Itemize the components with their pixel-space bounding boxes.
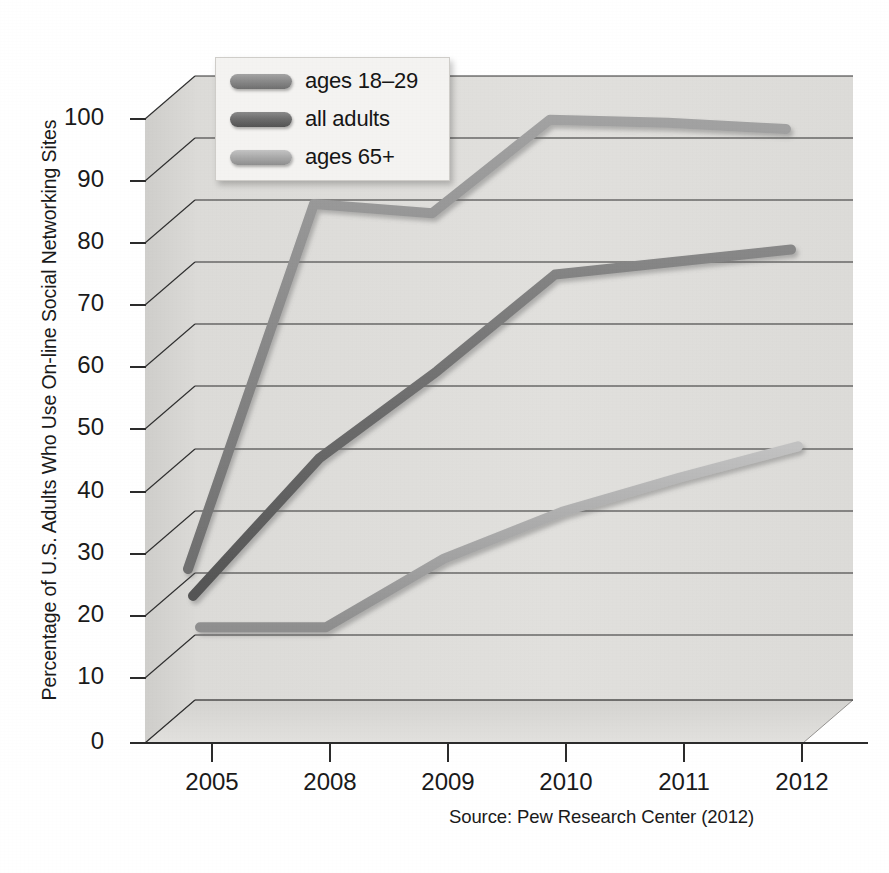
y-tick-label-10: 10: [44, 664, 104, 688]
y-tick-label-80: 80: [44, 229, 104, 253]
legend-label-ages-18-29: ages 18–29: [305, 68, 418, 94]
y-tick-label-30: 30: [44, 540, 104, 564]
y-tick-label-60: 60: [44, 353, 104, 377]
y-tick-label-70: 70: [44, 291, 104, 315]
legend-swatch-ages-65-plus: [230, 150, 292, 165]
plot-side-wall: [145, 76, 195, 743]
legend-item-all-adults[interactable]: all adults: [230, 105, 390, 133]
chart-legend: ages 18–29 all adults ages 65+: [215, 57, 450, 181]
x-tick-label-2012: 2012: [757, 770, 847, 794]
x-tick-label-2011: 2011: [639, 770, 729, 794]
legend-swatch-ages-18-29: [230, 74, 292, 89]
y-tick-label-50: 50: [44, 415, 104, 439]
x-tick-label-2010: 2010: [521, 770, 611, 794]
legend-item-ages-18-29[interactable]: ages 18–29: [230, 67, 418, 95]
y-axis-ticks: [130, 119, 146, 743]
y-tick-label-90: 90: [44, 167, 104, 191]
y-tick-label-0: 0: [44, 729, 104, 753]
y-tick-label-20: 20: [44, 602, 104, 626]
legend-label-all-adults: all adults: [305, 106, 390, 132]
chart-figure: Percentage of U.S. Adults Who Use On-lin…: [0, 0, 889, 873]
legend-swatch-all-adults: [230, 112, 292, 127]
y-tick-label-40: 40: [44, 478, 104, 502]
plot-floor: [145, 700, 853, 743]
legend-label-ages-65-plus: ages 65+: [305, 144, 395, 170]
legend-item-ages-65-plus[interactable]: ages 65+: [230, 143, 395, 171]
x-tick-label-2008: 2008: [285, 770, 375, 794]
source-note: Source: Pew Research Center (2012): [449, 806, 754, 828]
x-tick-label-2009: 2009: [403, 770, 493, 794]
x-tick-label-2005: 2005: [167, 770, 257, 794]
y-axis-title: Percentage of U.S. Adults Who Use On-lin…: [32, 60, 66, 760]
x-axis: [130, 743, 868, 762]
y-tick-label-100: 100: [44, 105, 104, 129]
